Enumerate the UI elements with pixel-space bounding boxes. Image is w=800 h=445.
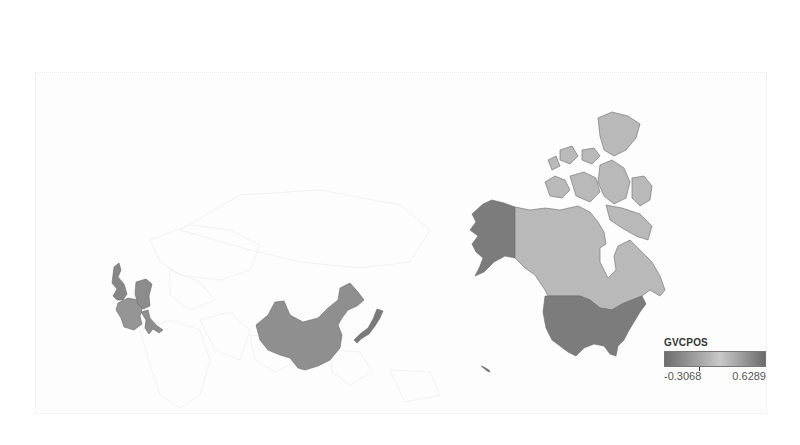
legend-title: GVCPOS bbox=[664, 337, 768, 348]
country-usa-hawaii[interactable] bbox=[481, 366, 490, 372]
country-united-kingdom[interactable] bbox=[112, 263, 127, 300]
asia-group bbox=[256, 283, 383, 370]
country-usa[interactable] bbox=[543, 296, 646, 356]
legend-max-label: 0.6289 bbox=[732, 370, 766, 382]
country-usa-alaska[interactable] bbox=[470, 200, 515, 276]
legend-gradient-bar bbox=[664, 351, 766, 367]
legend-zero-tick bbox=[699, 367, 700, 371]
country-china[interactable] bbox=[256, 283, 364, 370]
north-america-group bbox=[470, 112, 665, 372]
legend-min-label: -0.3068 bbox=[664, 370, 701, 382]
country-italy[interactable] bbox=[141, 310, 163, 334]
country-japan[interactable] bbox=[354, 309, 383, 343]
background-world-outlines bbox=[140, 190, 440, 408]
europe-group bbox=[112, 263, 163, 334]
legend: GVCPOS -0.3068 0.6289 bbox=[664, 337, 768, 382]
